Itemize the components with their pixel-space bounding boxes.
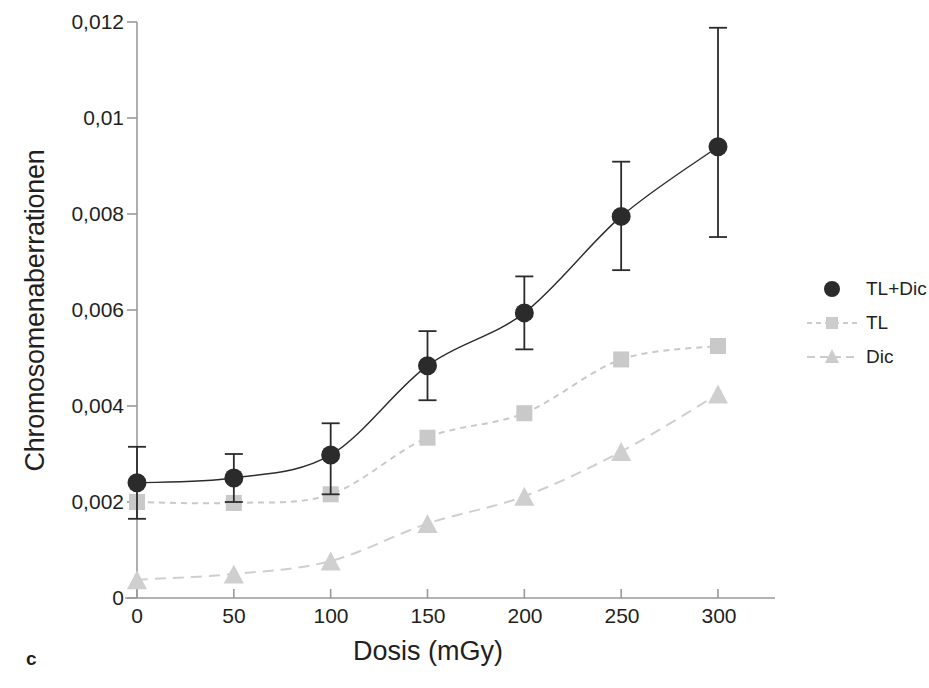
legend-item-dic: Dic	[806, 340, 926, 374]
legend-label: TL	[858, 312, 888, 334]
circle-marker-icon	[806, 277, 858, 301]
legend-key-tl	[806, 311, 858, 335]
data-point-circle	[515, 303, 534, 322]
chart-figure: Chromosomenaberrationen 0 0,002 0,004 0,…	[0, 0, 929, 688]
series-line	[137, 394, 718, 580]
data-point-square	[710, 338, 726, 354]
chart-legend: TL+Dic TL Dic	[806, 272, 926, 374]
legend-item-tl-dic: TL+Dic	[806, 272, 926, 306]
data-point-triangle	[224, 565, 244, 584]
data-point-circle	[224, 469, 243, 488]
legend-key-tl-dic	[806, 277, 858, 301]
data-point-triangle	[514, 487, 534, 506]
triangle-marker-icon	[806, 345, 858, 369]
data-point-square	[420, 430, 436, 446]
data-point-square	[516, 405, 532, 421]
square-marker-icon	[806, 311, 858, 335]
data-point-circle	[418, 356, 437, 375]
legend-label: TL+Dic	[858, 278, 927, 300]
data-point-circle	[128, 473, 147, 492]
data-point-triangle	[611, 442, 631, 461]
data-point-triangle	[418, 514, 438, 533]
legend-key-dic	[806, 345, 858, 369]
data-point-circle	[321, 445, 340, 464]
data-point-square	[613, 351, 629, 367]
legend-item-tl: TL	[806, 306, 926, 340]
data-point-triangle	[321, 552, 341, 571]
data-point-circle	[612, 207, 631, 226]
data-point-circle	[709, 137, 728, 156]
legend-label: Dic	[858, 346, 893, 368]
series-dic	[127, 385, 728, 590]
plot-area	[0, 0, 929, 688]
data-point-triangle	[708, 385, 728, 404]
